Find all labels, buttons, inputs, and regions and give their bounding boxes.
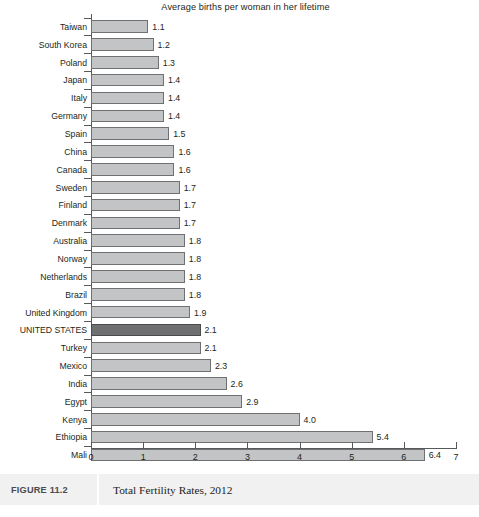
y-axis-tick (84, 142, 91, 143)
bar (91, 359, 211, 372)
bar-row: Poland1.3 (0, 54, 479, 72)
x-axis-tick-label: 3 (237, 452, 257, 462)
bar-row: UNITED STATES2.1 (0, 321, 479, 339)
category-label: Brazil (65, 290, 87, 299)
bar-value-label: 1.8 (189, 272, 201, 281)
bar (91, 145, 174, 158)
bar-value-label: 2.3 (215, 362, 227, 371)
bar (91, 217, 180, 230)
y-axis-tick (84, 357, 91, 358)
bar-row: Mexico2.3 (0, 357, 479, 375)
y-axis-tick (84, 107, 91, 108)
category-label: Poland (60, 58, 87, 67)
y-axis-tick (84, 303, 91, 304)
bar (91, 20, 148, 33)
bar-row: Denmark1.7 (0, 214, 479, 232)
bar-value-label: 1.7 (184, 201, 196, 210)
y-axis-tick (84, 285, 91, 286)
figure-caption-text: Total Fertility Rates, 2012 (113, 484, 232, 496)
y-axis-tick (84, 232, 91, 233)
category-label: Turkey (61, 344, 87, 353)
y-axis-tick (84, 392, 91, 393)
x-axis-tick (247, 442, 248, 449)
y-axis-tick (84, 178, 91, 179)
category-label: India (68, 380, 87, 389)
x-axis-tick (404, 442, 405, 449)
bar-row: Taiwan1.1 (0, 18, 479, 36)
bar-value-label: 6.4 (429, 451, 441, 460)
x-axis-tick (352, 442, 353, 449)
y-axis-tick (84, 89, 91, 90)
figure-total-fertility-rates: Average births per woman in her lifetime… (0, 0, 479, 517)
bar-value-label: 1.4 (168, 94, 180, 103)
category-label: Ethiopia (56, 433, 87, 442)
bar-row: Sweden1.7 (0, 179, 479, 197)
x-axis-tick-label: 7 (446, 452, 466, 462)
y-axis-tick (84, 410, 91, 411)
y-axis-tick (84, 250, 91, 251)
bar-value-label: 2.1 (205, 344, 217, 353)
bar-value-label: 1.4 (168, 76, 180, 85)
bar-row: Italy1.4 (0, 89, 479, 107)
y-axis-tick (84, 125, 91, 126)
y-axis-tick (84, 267, 91, 268)
category-label: Netherlands (40, 272, 87, 281)
y-axis-tick (84, 71, 91, 72)
chart-plot-area: Taiwan1.1South Korea1.2Poland1.3Japan1.4… (0, 18, 479, 438)
y-axis-tick (84, 375, 91, 376)
bar-row: Egypt2.9 (0, 393, 479, 411)
x-axis-tick (195, 442, 196, 449)
bar-value-label: 2.1 (205, 326, 217, 335)
bar-row: Germany1.4 (0, 107, 479, 125)
bar-value-label: 1.2 (158, 40, 170, 49)
category-label: Taiwan (60, 23, 87, 32)
y-axis-tick (84, 321, 91, 322)
x-axis-tick (456, 442, 457, 449)
category-label: Kenya (62, 415, 87, 424)
category-label: United Kingdom (25, 308, 87, 317)
bar-row: Brazil1.8 (0, 286, 479, 304)
bar (91, 199, 180, 212)
bar-row: Norway1.8 (0, 250, 479, 268)
bar (91, 92, 164, 105)
bar (91, 395, 242, 408)
category-label: Denmark (52, 219, 87, 228)
chart-title: Average births per woman in her lifetime (0, 2, 479, 12)
y-axis-tick (84, 214, 91, 215)
bar (91, 431, 373, 444)
x-axis-tick-label: 5 (342, 452, 362, 462)
x-axis-tick-label: 0 (81, 452, 101, 462)
bar (91, 413, 300, 426)
bar (91, 288, 185, 301)
bar (91, 270, 185, 283)
bar-row: Canada1.6 (0, 161, 479, 179)
y-axis-tick (84, 446, 91, 447)
category-label: China (64, 148, 87, 157)
bar-row: Ethiopia5.4 (0, 429, 479, 447)
bar-row: Turkey2.1 (0, 339, 479, 357)
category-label: Italy (71, 94, 87, 103)
bar-row: Australia1.8 (0, 232, 479, 250)
x-axis-tick (300, 442, 301, 449)
figure-caption-band: FIGURE 11.2 Total Fertility Rates, 2012 (0, 474, 479, 505)
bar-value-label: 1.3 (163, 58, 175, 67)
bar-value-label: 5.4 (377, 433, 389, 442)
bar-value-label: 1.7 (184, 183, 196, 192)
bar-row: Finland1.7 (0, 197, 479, 215)
bar-row: Kenya4.0 (0, 411, 479, 429)
bar-value-label: 1.7 (184, 219, 196, 228)
x-axis-tick (91, 442, 92, 449)
x-axis-tick-label: 2 (185, 452, 205, 462)
bar-row: Netherlands1.8 (0, 268, 479, 286)
bar-value-label: 1.8 (189, 237, 201, 246)
bar-highlighted (91, 324, 201, 337)
x-axis-tick-label: 1 (133, 452, 153, 462)
bar-value-label: 2.9 (246, 397, 258, 406)
y-axis-tick (84, 18, 91, 19)
bar-value-label: 1.5 (173, 130, 185, 139)
bar-value-label: 1.8 (189, 290, 201, 299)
bar-value-label: 1.6 (178, 147, 190, 156)
bar-row: United Kingdom1.9 (0, 304, 479, 322)
x-axis-tick (143, 442, 144, 449)
bar-row: Spain1.5 (0, 125, 479, 143)
